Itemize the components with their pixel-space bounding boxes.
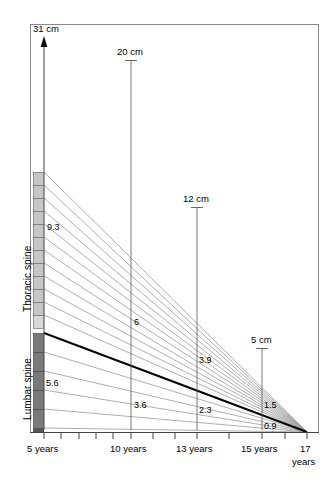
marker-label-5cm: 5 cm [251, 335, 272, 345]
value-label-1-5: 1.5 [264, 400, 277, 410]
x-tick-label-15-years: 15 years [241, 443, 277, 454]
value-label-0-9: 0.9 [264, 421, 277, 431]
value-label-3-6: 3.6 [134, 400, 147, 410]
thoracic-segments [34, 173, 44, 329]
x-tick-label-10-years: 10 years [110, 443, 146, 454]
x-axis [30, 432, 319, 439]
x-tick-label-5-years: 5 years [27, 443, 58, 454]
value-label-9-3: 9.3 [47, 222, 60, 232]
x-tick-label-17-years-unit: years [292, 456, 315, 467]
lumbar-spine-label: Lumbar spine [22, 358, 33, 420]
marker-label-20cm: 20 cm [117, 47, 143, 57]
lumbar-segments [34, 334, 44, 429]
chart-canvas [0, 0, 326, 483]
value-label-3-9: 3.9 [199, 355, 212, 365]
value-label-5-6: 5.6 [46, 378, 59, 388]
marker-label-12cm: 12 cm [183, 194, 209, 204]
plot-frame [31, 25, 319, 433]
value-label-6: 6 [134, 317, 139, 327]
x-tick-label-17: 17 [300, 443, 311, 454]
vertebral-column [33, 173, 44, 434]
thoracic-spine-label: Thoracic spine [22, 246, 33, 312]
marker-label-31cm: 31 cm [33, 24, 59, 34]
x-tick-label-13-years: 13 years [176, 443, 212, 454]
spine-growth-nomogram: Thoracic spine Lumbar spine 31 cm 20 cm … [0, 0, 326, 483]
value-label-2-3: 2.3 [199, 405, 212, 415]
